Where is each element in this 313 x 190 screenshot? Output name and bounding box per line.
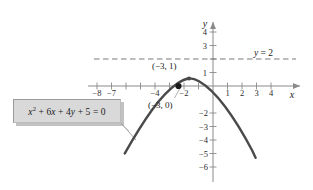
y-tick-label: −2 (199, 108, 208, 118)
x-tick-labels: −8 −7 −4 −2 1 2 3 4 (92, 88, 273, 98)
y-tick-label: 3 (203, 41, 207, 51)
y-axis (210, 22, 216, 182)
x-tick-label: 1 (225, 88, 229, 98)
y-axis-label: y (202, 18, 208, 29)
x-tick-label: 2 (240, 88, 244, 98)
y-tick-label: 1 (203, 68, 207, 78)
x-tick-label: −7 (107, 88, 116, 98)
x-tick-label: 4 (269, 88, 274, 98)
focus-point-label: (−3, 0) (148, 100, 173, 110)
vertex-point-label: (−3, 1) (152, 61, 177, 71)
x-tick-label: −2 (179, 88, 188, 98)
parabola-figure: x2 + 6x + 4y + 5 = 0 (0, 0, 313, 190)
vertex-point-marker (187, 76, 191, 80)
x-tick-label: 3 (254, 88, 258, 98)
x-tick-label: −4 (150, 88, 160, 98)
x-axis-label: x (289, 89, 295, 100)
directrix-label-rest: = 2 (258, 48, 273, 58)
y-tick-label: −5 (199, 149, 208, 159)
y-tick-label: −4 (199, 135, 209, 145)
plot-canvas: −8 −7 −4 −2 1 2 3 4 4 3 1 −2 −3 −4 −5 −6… (0, 0, 313, 190)
y-tick-label: −3 (199, 122, 208, 132)
parabola-curve (125, 78, 256, 157)
y-tick-labels: 4 3 1 −2 −3 −4 −5 −6 (199, 27, 209, 172)
y-tick-label: −6 (199, 162, 208, 172)
x-tick-label: −8 (92, 88, 101, 98)
directrix-label: y = 2 (253, 48, 273, 58)
